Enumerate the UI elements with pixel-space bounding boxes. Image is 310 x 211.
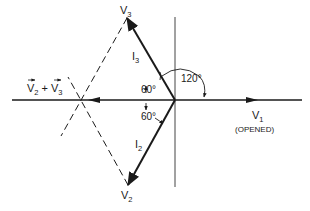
v2-plus-v3-label: V2+V3: [27, 80, 62, 97]
v2-label: V2: [121, 189, 133, 204]
phasor-diagram: V3 V2 V1 (OPENED) I3 I2 V2+V3 120° 60°: [0, 0, 310, 211]
v1-opened-note: (OPENED): [235, 125, 274, 134]
i3-label: I3: [132, 50, 139, 65]
svg-text:V2+V3: V2+V3: [27, 82, 62, 97]
v2-plus-v3-arrow-icon: [88, 97, 100, 103]
i2-label: I2: [135, 138, 142, 153]
v3-label: V3: [120, 4, 132, 19]
v1-label: V1: [252, 109, 264, 124]
v1-arrow-icon: [246, 97, 258, 103]
angle-label-120: 120°: [181, 73, 202, 84]
angle-label-60-upper: 60°: [141, 84, 156, 95]
angle-label-60-lower: 60°: [141, 111, 156, 122]
